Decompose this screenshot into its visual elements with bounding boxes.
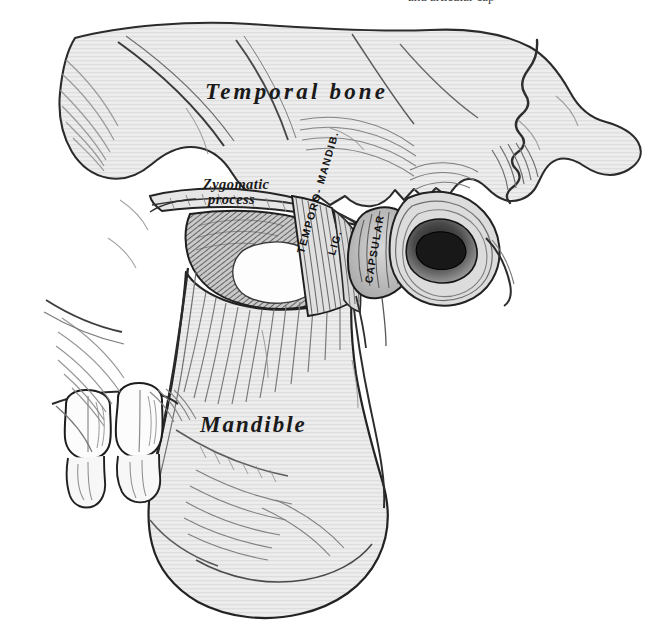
anatomical-plate: and articular cap Temporal bone Mandible…	[0, 0, 654, 632]
label-zygomatic-line1: Zygomatic	[203, 176, 269, 192]
label-zygomatic-process: Zygomatic process	[203, 177, 269, 207]
label-zygomatic-line2: process	[208, 192, 269, 207]
mandible	[148, 268, 387, 618]
label-mandible: Mandible	[200, 412, 307, 438]
temporal-bone	[60, 23, 641, 206]
label-temporal-bone: Temporal bone	[205, 79, 388, 105]
